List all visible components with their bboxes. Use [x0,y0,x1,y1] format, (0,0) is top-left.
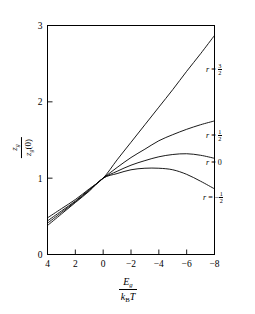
y-tick-label-0: 0 [38,250,43,260]
curve-label-r-zero: r = 0 [206,158,222,167]
curve-label-denominator: 2 [219,198,223,204]
x-tick-label--8: −8 [209,259,219,269]
curve-label-denominator: 2 [218,70,222,76]
x-tick-label-0: 0 [101,259,106,269]
curve-label-denominator: 2 [218,136,222,142]
x-tick-label-2: 2 [73,259,78,269]
plot-frame [48,26,215,255]
y-tick-label-2: 2 [38,97,43,107]
curve-label-equals: = [206,193,215,202]
y-tick-label-3: 3 [38,21,43,31]
y-axis-label-denominator: zg(0) [22,137,34,158]
curve-r-1-2 [48,121,215,221]
y-axis-label: zg zg(0) [5,118,39,178]
curve-r-3-2 [48,35,215,217]
data-curves [48,35,215,225]
x-axis-label-numerator: Eg [119,276,138,290]
curve-r-0 [48,154,215,223]
x-tick-label--2: −2 [126,259,136,269]
x-tick-label--4: −4 [154,259,164,269]
curve-label-value: 0 [218,158,222,167]
x-tick-label--6: −6 [182,259,192,269]
curve-label-r-minus-one-half: r = −12 [203,191,223,204]
curve-label-fraction: 32 [218,63,222,76]
curve-label-equals: = [209,131,218,140]
y-axis-label-fraction: zg zg(0) [9,137,34,158]
y-axis-label-inner: zg zg(0) [9,137,34,158]
figure-container: 0123 420−2−4−6−8 zg zg(0) Eg kBT r = 32r… [0,0,255,314]
curve-r-1-2 [48,168,215,225]
curve-label-equals: = [209,65,218,74]
curve-label-equals: = [209,158,218,167]
x-axis-label: Eg kBT [98,276,158,303]
curve-label-r-three-halves: r = 32 [206,63,222,76]
curve-label-r-one-half: r = 12 [206,129,222,142]
curve-label-fraction: 12 [218,129,222,142]
x-tick-label-4: 4 [45,259,50,269]
curve-label-fraction: 12 [219,191,223,204]
x-axis-label-fraction: Eg kBT [119,276,138,303]
x-axis-label-denominator: kBT [119,290,138,303]
x-axis-ticks [48,250,215,255]
x-axis-tick-labels: 420−2−4−6−8 [45,259,220,269]
y-axis-label-numerator: zg [9,137,22,158]
